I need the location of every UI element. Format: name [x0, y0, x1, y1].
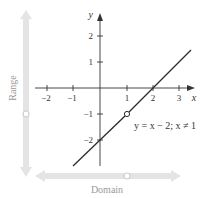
y-tick-label: −2	[83, 135, 93, 145]
domain-label: Domain	[91, 184, 123, 195]
y-axis-label: y	[88, 9, 94, 20]
y-axis: 2 1 −1 −2 y	[83, 9, 103, 166]
range-excluded-point	[23, 111, 29, 117]
x-axis-arrow-icon	[187, 85, 195, 91]
equation-label: y = x − 2; x ≠ 1	[134, 120, 196, 131]
hole-point	[124, 111, 129, 116]
x-tick-label: 1	[125, 93, 130, 103]
range-label: Range	[7, 75, 18, 101]
y-axis-arrow-icon	[97, 13, 103, 21]
x-axis: −2 −1 1 2 3 x	[35, 85, 197, 103]
y-tick-label: 1	[89, 57, 94, 67]
x-tick-label: 3	[177, 93, 182, 103]
x-tick-label: −1	[67, 93, 77, 103]
x-tick-label: 2	[151, 93, 156, 103]
domain-arrow	[35, 170, 181, 182]
domain-excluded-point	[124, 173, 130, 179]
x-axis-label: x	[191, 92, 197, 103]
x-tick-label: −2	[41, 93, 51, 103]
y-tick-label: 2	[89, 31, 94, 41]
y-tick-label: −1	[83, 109, 93, 119]
function-line	[73, 50, 191, 166]
function-graph: Range Domain −2 −1 1 2 3 x 2 1 −1 −2 y	[0, 0, 214, 198]
range-arrow	[20, 10, 32, 177]
